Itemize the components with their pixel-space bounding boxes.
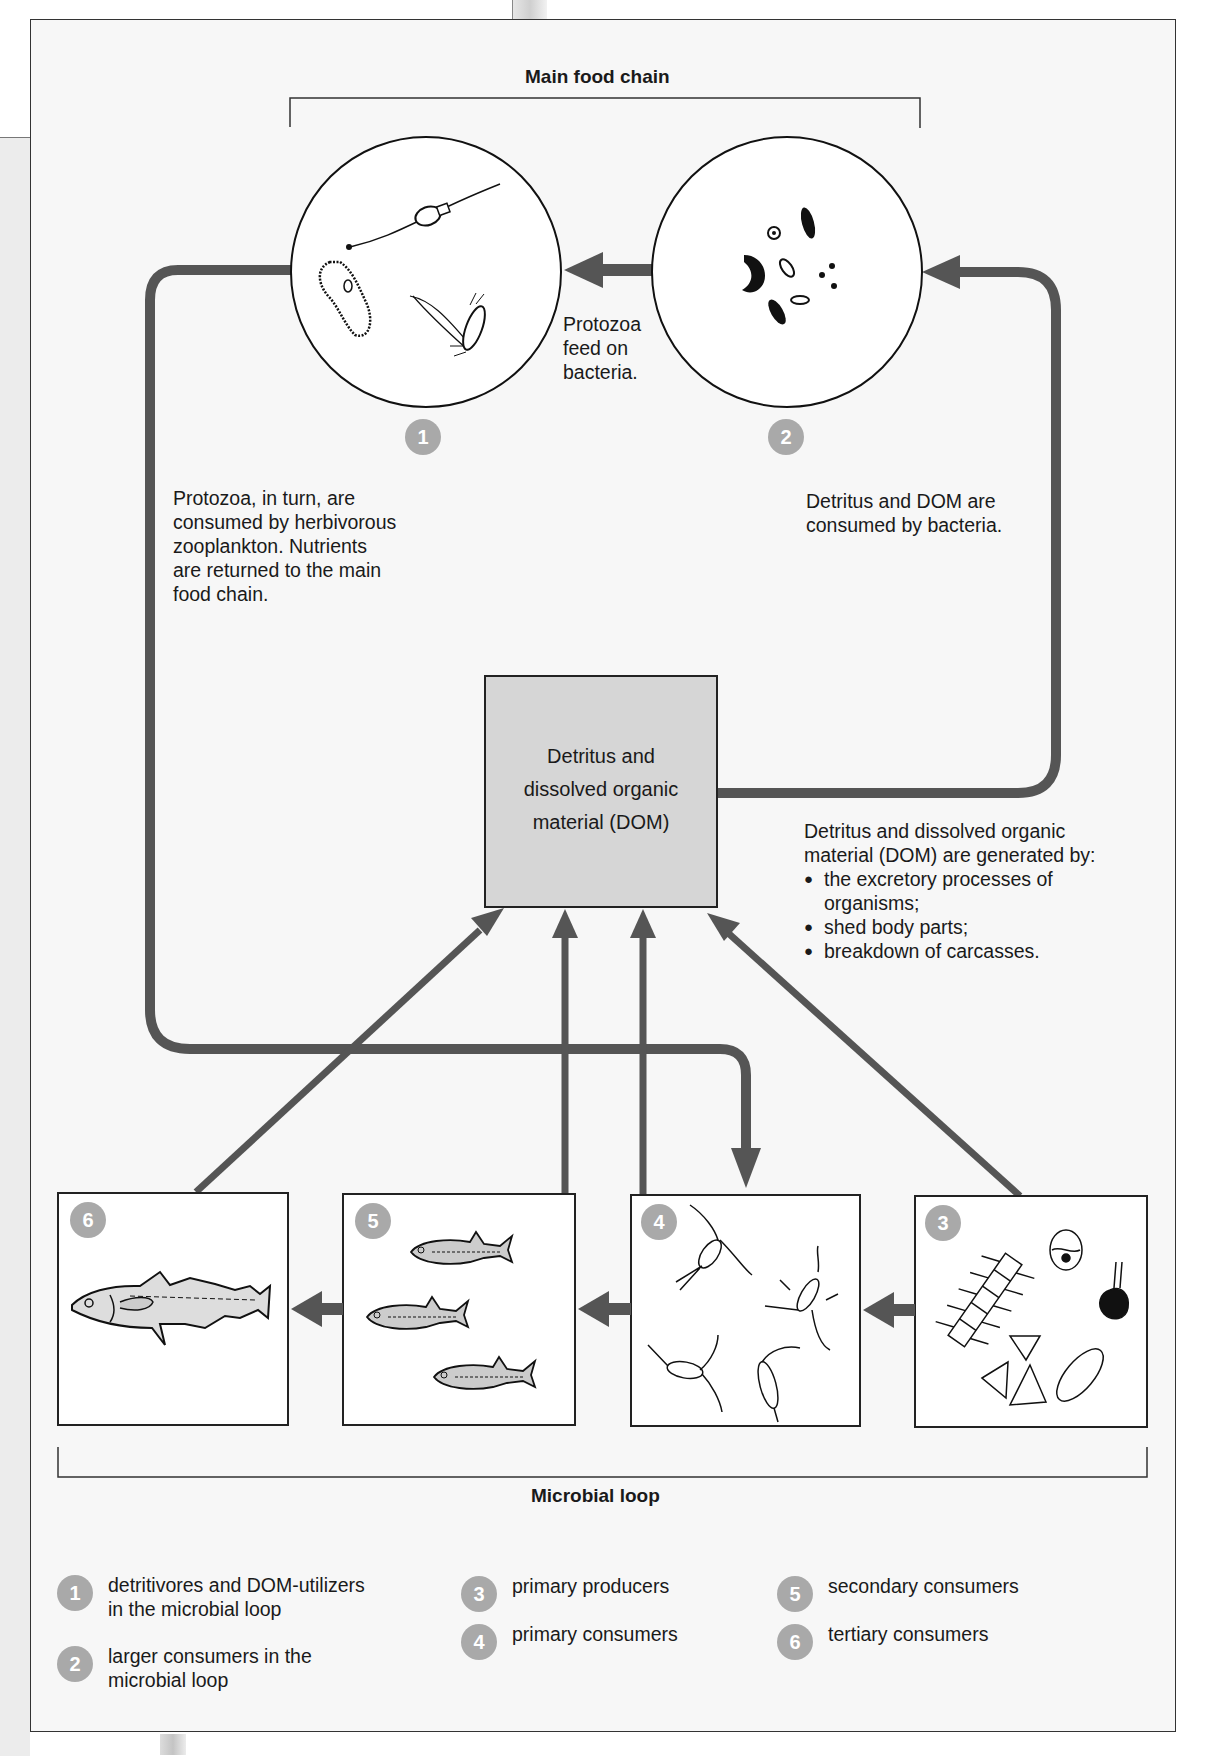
box4-to-box5-arrow [578,1291,631,1327]
legend-line: tertiary consumers [828,1622,988,1646]
annotation-line: consumed by herbivorous [173,510,396,534]
annotation-line: are returned to the main [173,558,396,582]
legend-line: detritivores and DOM-utilizers [108,1573,365,1597]
legend-badge: 2 [57,1646,93,1682]
arrow-label-line: feed on [563,336,641,360]
dom-box-label: Detritus and dissolved organic material … [485,740,717,839]
arrow-label-line: bacteria. [563,360,641,384]
dom-label-line: Detritus and [485,740,717,773]
legend-text: primary consumers [512,1622,678,1646]
box5-to-box6-arrow [291,1291,343,1327]
bullet-continuation: organisms; [804,891,1096,915]
legend-text: detritivores and DOM-utilizers in the mi… [108,1573,365,1621]
annotation-dom-consumed: Detritus and DOM are consumed by bacteri… [806,489,1002,537]
legend-line: in the microbial loop [108,1597,365,1621]
legend-badge: 1 [57,1575,93,1611]
annotation-line: zooplankton. Nutrients [173,534,396,558]
annotation-line: Protozoa, in turn, are [173,486,396,510]
dom-generation-list: the excretory processes of organisms; sh… [804,867,1096,963]
dom-label-line: dissolved organic [485,773,717,806]
legend-line: primary consumers [512,1622,678,1646]
annotation-line: consumed by bacteria. [806,513,1002,537]
main-food-chain-bracket [290,98,920,128]
box3-to-box4-arrow [863,1292,915,1328]
annotation-line: material (DOM) are generated by: [804,843,1096,867]
annotation-line: food chain. [173,582,396,606]
legend-text: larger consumers in the microbial loop [108,1644,312,1692]
legend-line: primary producers [512,1574,669,1598]
badge-5: 5 [355,1203,391,1239]
legend-text: secondary consumers [828,1574,1019,1598]
bullet-continuation-text: organisms; [824,892,919,914]
arrow-label-line: Protozoa [563,312,641,336]
legend-line: larger consumers in the [108,1644,312,1668]
legend-badge: 5 [777,1576,813,1612]
bullet-item: breakdown of carcasses. [804,939,1096,963]
badge-4: 4 [641,1204,677,1240]
badge-1: 1 [405,419,441,455]
legend-badge: 4 [461,1624,497,1660]
badge-3: 3 [925,1205,961,1241]
legend-line: microbial loop [108,1668,312,1692]
annotation-protozoa-consumed: Protozoa, in turn, are consumed by herbi… [173,486,396,606]
microbial-loop-bracket [58,1447,1147,1477]
legend-line: secondary consumers [828,1574,1019,1598]
bullet-item: the excretory processes of [804,867,1096,891]
badge-2: 2 [768,419,804,455]
arrow-label-protozoa-feed: Protozoa feed on bacteria. [563,312,641,384]
annotation-dom-generation: Detritus and dissolved organic material … [804,819,1096,963]
legend-text: tertiary consumers [828,1622,988,1646]
legend-badge: 3 [461,1576,497,1612]
bacteria-to-protozoa-arrow [564,252,652,288]
legend-badge: 6 [777,1624,813,1660]
bullet-item: shed body parts; [804,915,1096,939]
microbial-loop-title: Microbial loop [531,1484,660,1508]
protozoa-circle [291,137,561,407]
dom-label-line: material (DOM) [485,806,717,839]
annotation-line: Detritus and dissolved organic [804,819,1096,843]
legend-text: primary producers [512,1574,669,1598]
main-food-chain-title: Main food chain [525,65,670,89]
annotation-line: Detritus and DOM are [806,489,1002,513]
bacteria-circle [652,137,922,407]
badge-6: 6 [70,1202,106,1238]
